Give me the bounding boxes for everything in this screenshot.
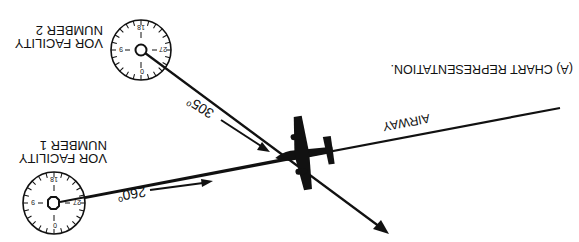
vor1-label: VOR FACILITY NUMBER 1 [15,138,107,166]
svg-text:9: 9 [31,199,35,206]
chart-representation-diagram: (A) CHART REPRESENTATION. AIRWAY 305o 26… [0,0,579,242]
svg-text:0: 0 [53,222,57,229]
vor2-compass-rose: 0 9 18 27 [111,20,171,80]
airway-label: AIRWAY [381,111,431,134]
svg-text:9: 9 [119,46,123,53]
svg-text:18: 18 [137,24,145,31]
figure-caption: (A) CHART REPRESENTATION. [391,62,573,76]
arrow-head-icon [201,179,213,187]
vor2-radial-label: 305o [184,93,217,123]
vor1-compass-rose: 0 9 18 27 [23,172,85,234]
svg-text:27: 27 [159,46,167,53]
radial-arrowhead [373,220,389,234]
vor2-label: VOR FACILITY NUMBER 2 [11,23,103,51]
vor2-radial-line [141,50,380,227]
svg-text:0: 0 [140,68,144,75]
svg-text:18: 18 [50,176,58,183]
